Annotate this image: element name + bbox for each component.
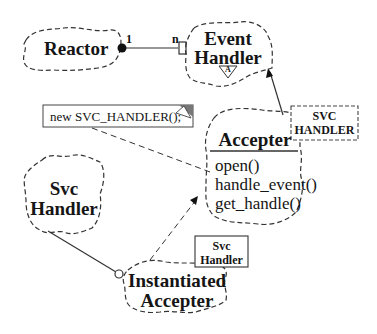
svc-handler-label-line2: Handler bbox=[28, 199, 100, 218]
binding-circle bbox=[115, 270, 123, 278]
event-handler-label-line1: Event bbox=[196, 29, 260, 48]
arrowhead-icon bbox=[190, 196, 198, 205]
operation-handle-event: handle_event() bbox=[215, 175, 317, 195]
template-param-line2: HANDLER bbox=[291, 124, 358, 137]
note-link-line bbox=[92, 128, 210, 172]
svc-handler-label-line1: Svc bbox=[32, 179, 96, 198]
operation-get-handle: get_handle() bbox=[215, 194, 301, 214]
abstract-marker: A bbox=[222, 66, 234, 74]
note-text: new SVC_HANDLER(); bbox=[50, 109, 181, 125]
template-param-line1: SVC bbox=[291, 110, 358, 123]
binding-line bbox=[48, 231, 116, 272]
inheritance-arrow-line bbox=[270, 72, 283, 115]
instantiated-accepter-label-line1: Instantiated bbox=[128, 271, 226, 290]
multiplicity-n: n bbox=[172, 32, 179, 47]
association-end-box bbox=[179, 42, 186, 54]
bound-param-line2: Handler bbox=[195, 254, 248, 267]
bound-param-line1: Svc bbox=[195, 240, 248, 253]
reactor-label: Reactor bbox=[44, 39, 108, 58]
instantiation-arrow-line bbox=[150, 200, 196, 260]
multiplicity-one: 1 bbox=[126, 32, 132, 47]
instantiated-accepter-label-line2: Accepter bbox=[134, 291, 220, 310]
operation-open: open() bbox=[215, 156, 259, 176]
accepter-label: Accepter bbox=[214, 130, 296, 149]
